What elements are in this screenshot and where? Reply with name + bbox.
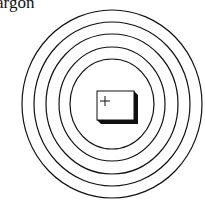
atom-diagram bbox=[0, 0, 205, 203]
nucleus bbox=[97, 91, 138, 124]
nucleus-box bbox=[97, 91, 134, 120]
